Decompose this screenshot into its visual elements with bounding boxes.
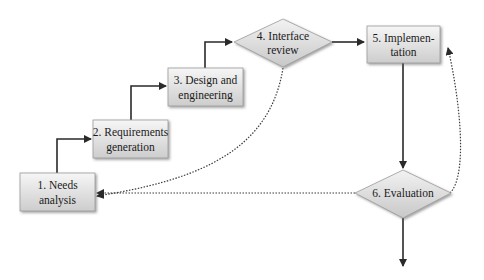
- edge-1-to-2: [57, 139, 91, 173]
- node-implementation-line1: 5. Implemen-: [373, 32, 435, 45]
- node-implementation: 5. Implemen- tation: [367, 26, 440, 63]
- flowchart-diagram: 1. Needs analysis 2. Requirements genera…: [0, 0, 484, 280]
- node-design-engineering-line2: engineering: [178, 89, 233, 102]
- edge-3-to-4: [205, 42, 232, 68]
- node-needs-analysis: 1. Needs analysis: [20, 173, 95, 211]
- edge-6-to-5-feedback: [448, 48, 461, 193]
- node-design-engineering: 3. Design and engineering: [168, 68, 243, 106]
- node-requirements-generation-line1: 2. Requirements: [93, 126, 169, 139]
- edge-2-to-3: [131, 86, 166, 120]
- node-design-engineering-line1: 3. Design and: [174, 74, 238, 87]
- node-implementation-line2: tation: [390, 46, 416, 58]
- node-requirements-generation-line2: generation: [106, 141, 155, 154]
- node-evaluation: 6. Evaluation: [355, 170, 451, 218]
- node-interface-review-line2: review: [267, 44, 299, 56]
- node-interface-review-line1: 4. Interface: [257, 30, 309, 42]
- node-needs-analysis-line2: analysis: [39, 194, 77, 207]
- node-evaluation-label: 6. Evaluation: [372, 187, 434, 199]
- node-needs-analysis-line1: 1. Needs: [37, 179, 78, 191]
- node-requirements-generation: 2. Requirements generation: [93, 120, 169, 158]
- node-interface-review: 4. Interface review: [234, 19, 332, 67]
